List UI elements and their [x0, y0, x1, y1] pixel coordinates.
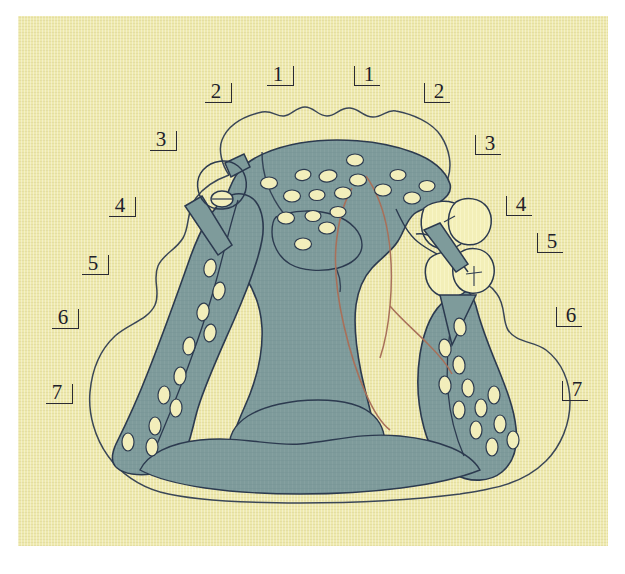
figure-root: 2 1 3 4 5 6 7 1 2: [0, 0, 625, 574]
label-left-6-rule: [52, 328, 78, 329]
label-left-7[interactable]: 7: [44, 380, 90, 416]
label-left-3[interactable]: 3: [148, 127, 194, 163]
label-right-3-number: 3: [479, 131, 501, 155]
label-left-4-rule: [109, 216, 135, 217]
label-left-1-stem: [293, 66, 294, 86]
label-left-7-rule: [46, 403, 72, 404]
label-right-4-rule: [506, 215, 532, 216]
label-left-3-stem: [176, 131, 177, 151]
label-right-1-number: 1: [358, 62, 380, 86]
label-left-5-number: 5: [82, 251, 104, 275]
label-left-1-number: 1: [267, 62, 289, 86]
label-right-2[interactable]: 2: [420, 79, 466, 115]
label-left-2-number: 2: [205, 79, 227, 103]
label-left-2-stem: [231, 83, 232, 103]
label-left-6-number: 6: [52, 305, 74, 329]
label-right-2-number: 2: [428, 79, 450, 103]
label-left-6[interactable]: 6: [50, 305, 96, 341]
label-left-3-number: 3: [150, 127, 172, 151]
label-left-7-stem: [72, 384, 73, 404]
label-left-3-rule: [150, 150, 176, 151]
label-right-6-stem: [556, 307, 557, 327]
label-left-6-stem: [78, 309, 79, 329]
label-right-1[interactable]: 1: [350, 62, 396, 98]
label-right-7[interactable]: 7: [558, 377, 604, 413]
label-left-4-stem: [135, 197, 136, 217]
label-left-5-rule: [82, 274, 108, 275]
label-left-2-rule: [205, 102, 231, 103]
label-right-4-stem: [506, 196, 507, 216]
label-right-4[interactable]: 4: [502, 192, 548, 228]
label-right-5-number: 5: [541, 229, 563, 253]
label-right-4-number: 4: [510, 192, 532, 216]
label-right-3[interactable]: 3: [471, 131, 517, 167]
label-right-5-rule: [537, 252, 563, 253]
label-left-5-stem: [108, 255, 109, 275]
label-right-6-rule: [556, 326, 582, 327]
label-right-7-number: 7: [566, 377, 588, 401]
label-right-2-rule: [424, 102, 450, 103]
label-left-2[interactable]: 2: [203, 79, 249, 115]
label-left-4-number: 4: [109, 193, 131, 217]
label-right-6-number: 6: [560, 303, 582, 327]
molar-tooth-upper-right-2: [448, 199, 491, 245]
label-right-6[interactable]: 6: [552, 303, 598, 339]
label-right-3-rule: [475, 154, 501, 155]
label-right-7-rule: [562, 400, 588, 401]
label-right-2-stem: [424, 83, 425, 103]
lower-central-shaded-mass: [140, 435, 480, 494]
label-right-1-rule: [354, 85, 380, 86]
label-right-5[interactable]: 5: [533, 229, 579, 265]
label-right-1-stem: [354, 66, 355, 86]
anatomy-illustration: [0, 0, 625, 574]
label-left-7-number: 7: [46, 380, 68, 404]
label-left-1-rule: [267, 85, 293, 86]
label-left-5[interactable]: 5: [80, 251, 126, 287]
label-left-4[interactable]: 4: [107, 193, 153, 229]
label-right-7-stem: [562, 381, 563, 401]
label-left-1[interactable]: 1: [265, 62, 311, 98]
label-right-3-stem: [475, 135, 476, 155]
label-right-5-stem: [537, 233, 538, 253]
